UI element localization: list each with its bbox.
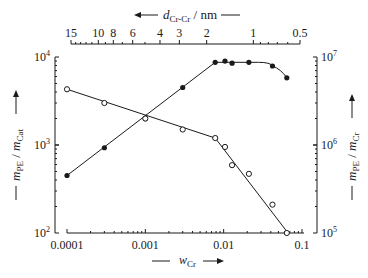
open-data-point	[284, 230, 289, 235]
chart: 15108643210.5 dCr-Cr / nm 104103102 mPE …	[0, 0, 368, 278]
y-tick-label: 105	[321, 225, 337, 240]
x-tick-label: 0.0001	[51, 238, 84, 252]
filled-data-point	[222, 58, 227, 63]
filled-data-point	[64, 173, 69, 178]
open-data-point	[246, 171, 251, 176]
left-axis-title: mPE / mCat	[8, 90, 25, 200]
open-data-point	[180, 127, 185, 132]
filled-data-point	[246, 60, 251, 65]
x-tick-label: 0.1	[294, 238, 309, 252]
filled-data-point	[284, 75, 289, 80]
filled-data-point	[180, 85, 185, 90]
left-axis: 104103102 mPE / mCat	[8, 49, 59, 240]
x-tick-label: 0.001	[132, 238, 159, 252]
bottom-axis-title: wCr	[152, 253, 224, 269]
filled-data-point	[213, 60, 218, 65]
top-tick-label: 2	[204, 26, 210, 40]
open-data-point	[102, 100, 107, 105]
arrow-up-icon	[13, 90, 19, 97]
open-data-point	[229, 163, 234, 168]
open-data-point	[213, 135, 218, 140]
bottom-axis: 0.00010.0010.010.1 wCr	[51, 229, 310, 269]
open-data-point	[64, 87, 69, 92]
svg-text:dCr-Cr / nm: dCr-Cr / nm	[163, 7, 217, 24]
top-tick-label: 0.5	[293, 26, 308, 40]
filled-data-point	[102, 145, 107, 150]
top-tick-label: 10	[92, 26, 104, 40]
top-tick-label: 6	[130, 26, 136, 40]
open-data-point	[270, 202, 275, 207]
top-axis-title: dCr-Cr / nm	[134, 7, 240, 24]
series-mpe-mcat	[64, 58, 289, 178]
top-tick-label: 3	[176, 26, 182, 40]
arrow-right-icon	[217, 258, 224, 264]
arrow-up-icon	[349, 94, 355, 101]
arrow-left-icon	[134, 12, 141, 18]
open-data-point	[143, 116, 148, 121]
right-axis-title: mPE / mCr	[344, 94, 361, 200]
fit-line-open	[67, 89, 289, 234]
y-tick-label: 102	[34, 225, 50, 240]
y-tick-label: 104	[34, 49, 50, 64]
top-tick-label: 1	[250, 26, 256, 40]
x-tick-label: 0.01	[213, 238, 234, 252]
top-tick-label: 8	[110, 26, 116, 40]
filled-data-point	[270, 63, 275, 68]
fit-line-filled	[67, 62, 287, 175]
series-mpe-mcr	[64, 87, 289, 236]
svg-text:mPE / mCat: mPE / mCat	[8, 129, 25, 181]
open-data-point	[222, 144, 227, 149]
top-tick-label: 15	[65, 26, 77, 40]
filled-data-point	[229, 61, 234, 66]
top-axis: 15108643210.5 dCr-Cr / nm	[65, 7, 308, 44]
y-tick-label: 107	[321, 49, 337, 64]
svg-text:wCr: wCr	[179, 253, 196, 269]
y-tick-label: 106	[321, 137, 337, 152]
y-tick-label: 103	[34, 137, 50, 152]
right-axis: 107106105 mPE / mCr	[313, 49, 361, 240]
top-tick-label: 4	[157, 26, 163, 40]
svg-text:mPE / mCr: mPE / mCr	[344, 133, 361, 181]
